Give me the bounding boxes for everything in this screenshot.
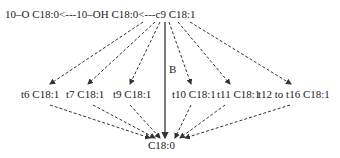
biohydrogenation-diagram: 10–O C18:0<---10–OH C18:0<---c9 C18:1 B … xyxy=(0,0,340,158)
node-c18-0: C18:0 xyxy=(148,139,175,151)
node-t10: t10 C18:1 xyxy=(172,88,216,100)
arrow-left-2: <--- xyxy=(138,8,155,20)
node-t11: t11 C18:1 xyxy=(217,88,260,100)
node-t6: t6 C18:1 xyxy=(21,88,59,100)
path-label-b: B xyxy=(169,63,176,75)
diagram-edges xyxy=(0,0,340,158)
node-10-oxo: 10–O C18:0 xyxy=(5,8,59,20)
node-t9: t9 C18:1 xyxy=(113,88,151,100)
node-t12-t16: t12 to t16 C18:1 xyxy=(258,88,330,100)
arrow-c9-to-t6 xyxy=(50,22,143,84)
top-row: 10–O C18:0<---10–OH C18:0<---c9 C18:1 xyxy=(5,8,196,20)
node-10-hydroxy: 10–OH C18:0 xyxy=(76,8,138,20)
node-t7: t7 C18:1 xyxy=(66,88,104,100)
arrow-left-1: <--- xyxy=(59,8,76,20)
node-c9: c9 C18:1 xyxy=(156,8,196,20)
